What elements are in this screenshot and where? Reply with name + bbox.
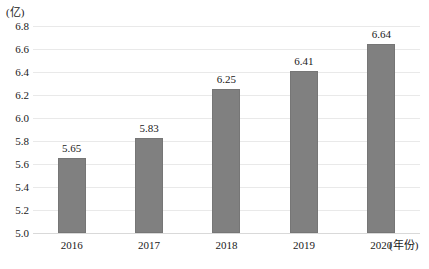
bar-value-label: 5.83	[139, 123, 158, 134]
y-axis-tick-label: 5.0	[0, 228, 29, 239]
x-axis-unit-caption: (年份)	[389, 239, 418, 252]
bar	[367, 44, 395, 233]
bar	[135, 138, 163, 233]
bar	[290, 71, 318, 233]
y-axis-unit-caption: (亿)	[6, 6, 24, 18]
bar-chart: (亿) 6.86.66.46.26.05.85.65.45.25.0 5.655…	[0, 0, 429, 269]
bar-slot: 5.83	[110, 26, 187, 233]
x-axis-tick-label: 2017	[110, 239, 187, 252]
x-axis-tick-label: 2019	[265, 239, 342, 252]
axis-baseline	[33, 233, 420, 234]
bar-slot: 6.25	[188, 26, 265, 233]
bar-value-label: 5.65	[62, 143, 81, 154]
bar-value-label: 6.25	[217, 74, 236, 85]
bar-value-label: 6.64	[372, 29, 391, 40]
bar	[58, 158, 86, 233]
bars-layer: 5.655.836.256.416.64	[33, 26, 420, 233]
bar-slot: 6.64	[343, 26, 420, 233]
y-axis-tick-label: 6.4	[0, 67, 29, 78]
x-axis-tick-label: 2016	[33, 239, 110, 252]
y-axis-tick-labels: 6.86.66.46.26.05.85.65.45.25.0	[0, 26, 29, 233]
y-axis-tick-label: 5.4	[0, 182, 29, 193]
x-axis-tick-label: 2018	[188, 239, 265, 252]
bar-value-label: 6.41	[294, 56, 313, 67]
y-axis-tick-label: 6.6	[0, 44, 29, 55]
y-axis-tick-label: 6.8	[0, 21, 29, 32]
bar	[212, 89, 240, 233]
bar-slot: 5.65	[33, 26, 110, 233]
y-axis-tick-label: 5.8	[0, 136, 29, 147]
y-axis-tick-label: 5.6	[0, 159, 29, 170]
bar-slot: 6.41	[265, 26, 342, 233]
y-axis-tick-label: 6.0	[0, 113, 29, 124]
x-axis-tick-labels: 20162017201820192020	[33, 239, 420, 255]
y-axis-tick-label: 5.2	[0, 205, 29, 216]
y-axis-tick-label: 6.2	[0, 90, 29, 101]
